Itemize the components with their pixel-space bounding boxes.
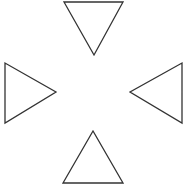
bottom-triangle-icon (63, 131, 123, 183)
top-triangle-icon (64, 2, 123, 55)
triangles-svg (0, 0, 185, 193)
diagram-canvas (0, 0, 185, 193)
right-triangle-icon (130, 63, 182, 123)
left-triangle-icon (5, 63, 56, 123)
